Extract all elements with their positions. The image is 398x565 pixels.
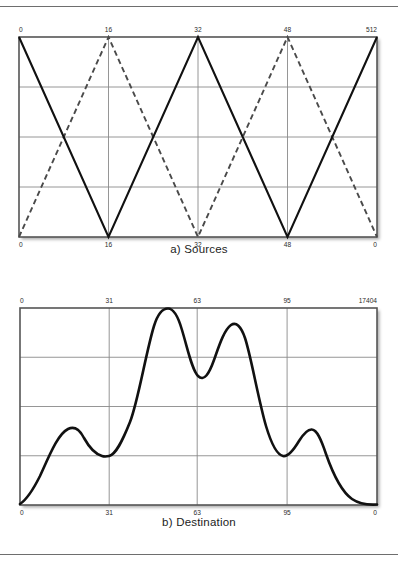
axis-top-tick-3: 48: [284, 26, 292, 33]
axis-bottom-tick-3: 95: [283, 509, 291, 516]
caption-destination: b) Destination: [0, 516, 398, 528]
axis-bottom-tick-4: 0: [373, 509, 377, 516]
axis-top-labels: 0 31 63 95 17404: [20, 297, 377, 304]
axis-bottom-labels: 0 31 63 95 0: [20, 509, 377, 516]
axis-bottom-tick-1: 31: [106, 509, 114, 516]
axis-top-tick-0: 0: [20, 297, 24, 304]
axis-top-tick-4: 512: [366, 26, 377, 33]
axis-top-tick-1: 16: [105, 26, 113, 33]
axis-bottom-tick-0: 0: [20, 509, 24, 516]
chart-destination: 0 31 63 95 17404 0 31 63 95 0: [0, 286, 398, 521]
axis-top-tick-3: 95: [283, 297, 291, 304]
page-rule-bottom: [0, 554, 398, 555]
chart-sources: 0 16 32 48 512 0 16 32 48 0: [0, 16, 398, 256]
page-rule-top: [0, 6, 398, 7]
axis-top-labels: 0 16 32 48 512: [19, 26, 377, 33]
panel-destination: 0 31 63 95 17404 0 31 63 95 0: [0, 286, 398, 541]
axis-top-tick-0: 0: [19, 26, 23, 33]
chart-destination-svg: 0 31 63 95 17404 0 31 63 95 0: [0, 286, 398, 521]
axis-top-tick-2: 32: [194, 26, 202, 33]
figure-page: 0 16 32 48 512 0 16 32 48 0 a) Sources: [0, 0, 398, 565]
chart-sources-svg: 0 16 32 48 512 0 16 32 48 0: [0, 16, 398, 256]
axis-top-tick-4: 17404: [359, 297, 378, 304]
axis-bottom-tick-2: 63: [194, 509, 202, 516]
axis-top-tick-2: 63: [194, 297, 202, 304]
axis-top-tick-1: 31: [106, 297, 114, 304]
panel-sources: 0 16 32 48 512 0 16 32 48 0: [0, 16, 398, 256]
caption-sources: a) Sources: [0, 243, 398, 255]
